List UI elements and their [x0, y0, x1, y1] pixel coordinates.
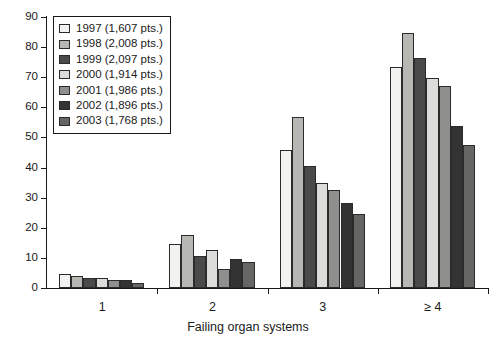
legend-item-label: 2000 (1,914 pts.): [76, 69, 163, 81]
x-axis-category-label: ≥ 4: [424, 300, 441, 314]
bar: [108, 280, 120, 288]
legend-swatch-icon: [59, 24, 70, 33]
legend-swatch-icon: [59, 55, 70, 64]
y-axis-tick-label: 0: [0, 282, 38, 294]
y-axis-tick-label: 10: [0, 252, 38, 264]
legend-item: 1997 (1,607 pts.): [59, 21, 163, 36]
y-axis-tick-label: 50: [0, 132, 38, 144]
chart-figure: 0102030405060708090 123≥ 4 Failing organ…: [0, 0, 496, 341]
bar-group: [169, 17, 254, 288]
bar: [304, 166, 316, 288]
bar: [169, 244, 181, 288]
legend-item-label: 2001 (1,986 pts.): [76, 85, 163, 97]
bar-group: [390, 17, 475, 288]
bar: [206, 250, 218, 288]
bar: [181, 235, 193, 288]
bar-group: [280, 17, 365, 288]
bar: [341, 203, 353, 288]
y-axis-tick-label: 20: [0, 222, 38, 234]
legend-swatch-icon: [59, 70, 70, 79]
bar: [390, 67, 402, 288]
y-axis-tick-label: 90: [0, 11, 38, 23]
x-axis-title: Failing organ systems: [0, 320, 496, 334]
legend-item-label: 1999 (2,097 pts.): [76, 54, 163, 66]
bar: [194, 256, 206, 288]
bar: [230, 259, 242, 289]
legend-swatch-icon: [59, 101, 70, 110]
bar: [426, 78, 438, 288]
y-axis-tick-label: 30: [0, 192, 38, 204]
x-axis-tick: [268, 288, 269, 294]
bar: [439, 86, 451, 288]
legend-item: 1999 (2,097 pts.): [59, 52, 163, 67]
legend-swatch-icon: [59, 40, 70, 49]
legend-item-label: 2003 (1,768 pts.): [76, 115, 163, 127]
bar: [316, 183, 328, 288]
x-axis-tick: [157, 288, 158, 294]
legend-swatch-icon: [59, 117, 70, 126]
legend-item: 2001 (1,986 pts.): [59, 83, 163, 98]
bar: [328, 190, 340, 288]
bar: [353, 214, 365, 288]
legend-item-label: 1997 (1,607 pts.): [76, 23, 163, 35]
x-axis-category-label: 3: [319, 300, 326, 314]
y-axis-tick-label: 80: [0, 41, 38, 53]
legend-item-label: 1998 (2,008 pts.): [76, 38, 163, 50]
y-axis-tick-label: 70: [0, 71, 38, 83]
bar: [292, 117, 304, 288]
bar: [132, 283, 144, 288]
bar: [83, 278, 95, 288]
chart-legend: 1997 (1,607 pts.)1998 (2,008 pts.)1999 (…: [53, 16, 171, 134]
legend-swatch-icon: [59, 86, 70, 95]
bar: [463, 145, 475, 288]
legend-item-label: 2002 (1,896 pts.): [76, 100, 163, 112]
y-axis-tick-label: 40: [0, 162, 38, 174]
bar: [218, 269, 230, 288]
x-axis-tick: [378, 288, 379, 294]
y-axis-tick-label: 60: [0, 102, 38, 114]
y-axis-tick: [41, 288, 47, 289]
legend-item: 2003 (1,768 pts.): [59, 113, 163, 128]
bar: [280, 150, 292, 288]
legend-item: 2000 (1,914 pts.): [59, 67, 163, 82]
bar: [242, 262, 254, 288]
bar: [71, 276, 83, 288]
bar: [96, 278, 108, 288]
legend-item: 2002 (1,896 pts.): [59, 98, 163, 113]
x-axis-category-label: 2: [209, 300, 216, 314]
bar: [451, 126, 463, 288]
x-axis-category-label: 1: [99, 300, 106, 314]
bar: [120, 280, 132, 288]
bar: [414, 58, 426, 288]
x-axis-tick: [488, 288, 489, 294]
bar: [59, 274, 71, 288]
bar: [402, 33, 414, 288]
legend-item: 1998 (2,008 pts.): [59, 36, 163, 51]
